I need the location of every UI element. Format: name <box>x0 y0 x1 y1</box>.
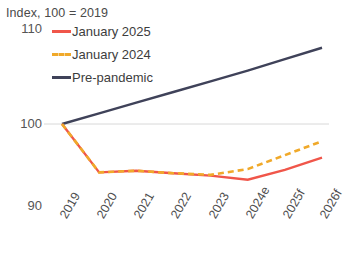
series-line-pre-pandemic <box>62 48 322 124</box>
series-line-january-2024 <box>62 124 322 175</box>
series-lines <box>62 48 322 180</box>
